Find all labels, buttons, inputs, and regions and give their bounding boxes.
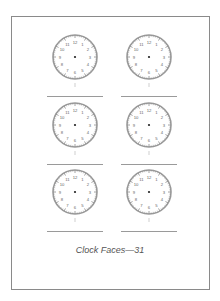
answer-line — [47, 231, 103, 232]
svg-text:10: 10 — [134, 182, 139, 187]
answer-line — [121, 231, 177, 232]
clock-icon: 121234567891011 — [45, 95, 105, 167]
svg-text:10: 10 — [134, 47, 139, 52]
svg-text:12: 12 — [147, 175, 152, 180]
svg-text:11: 11 — [139, 177, 144, 182]
svg-text:12: 12 — [73, 108, 78, 113]
svg-text:11: 11 — [65, 42, 70, 47]
clock-face: 121234567891011 — [45, 27, 105, 97]
svg-text:10: 10 — [60, 47, 65, 52]
svg-text:11: 11 — [65, 110, 70, 115]
svg-text:12: 12 — [147, 40, 152, 45]
clock-icon: 121234567891011 — [45, 27, 105, 99]
clock-icon: 121234567891011 — [119, 27, 179, 99]
svg-text:10: 10 — [60, 182, 65, 187]
svg-text:12: 12 — [73, 175, 78, 180]
svg-text:11: 11 — [65, 177, 70, 182]
svg-text:10: 10 — [134, 115, 139, 120]
svg-text:12: 12 — [147, 108, 152, 113]
clock-face: 121234567891011 — [45, 162, 105, 232]
clock-face: 121234567891011 — [119, 162, 179, 232]
clock-face: 121234567891011 — [119, 27, 179, 97]
clock-icon: 121234567891011 — [119, 162, 179, 234]
clock-face: 121234567891011 — [45, 95, 105, 165]
svg-text:11: 11 — [139, 110, 144, 115]
svg-text:10: 10 — [60, 115, 65, 120]
clock-icon: 121234567891011 — [119, 95, 179, 167]
clock-face: 121234567891011 — [119, 95, 179, 165]
clock-icon: 121234567891011 — [45, 162, 105, 234]
page-caption: Clock Faces—31 — [0, 245, 220, 255]
svg-text:12: 12 — [73, 40, 78, 45]
svg-text:11: 11 — [139, 42, 144, 47]
